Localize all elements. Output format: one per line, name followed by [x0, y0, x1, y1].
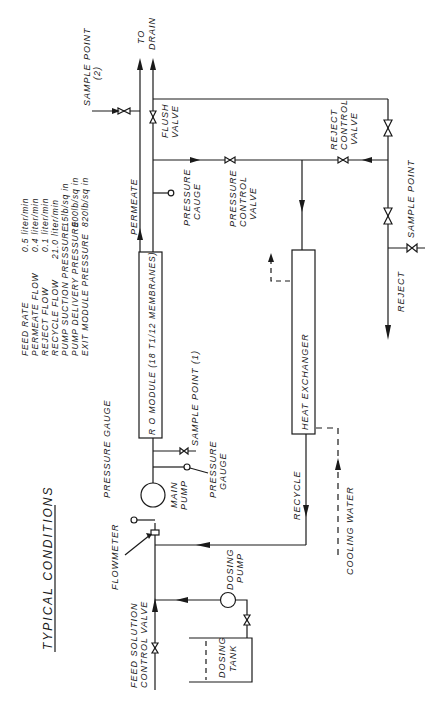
flow-arrow-icon	[268, 253, 274, 262]
flow-arrow-icon	[299, 200, 305, 212]
pressure-control-valve-icon	[225, 157, 235, 163]
flow-arrow-icon	[196, 542, 210, 548]
sample-point-label: SAMPLE POINT	[406, 159, 416, 238]
flow-arrow-icon	[362, 157, 372, 163]
feed-control-valve-label: FEED SOLUTION	[129, 602, 139, 688]
main-pump-label: MAIN	[169, 482, 179, 509]
diagram-title: TYPICAL CONDITIONS	[41, 486, 55, 650]
cooling-water-arrow-icon	[335, 458, 341, 470]
dosing-valve-icon	[244, 615, 250, 625]
reject-control-valve-icon	[338, 157, 348, 163]
labels: TYPICAL CONDITIONS FEED RATE 0.5 liter/m…	[20, 17, 416, 688]
flush-valve-label: FLUSH	[160, 103, 170, 138]
pressure-gauge-label: GAUGE	[218, 452, 228, 490]
sample-point-2-label: SAMPLE POINT	[82, 27, 92, 106]
ro-module-label: R O MODULE (18 T1/12 MEMBRANES)	[147, 251, 157, 435]
sample-point-valve-icon	[407, 244, 417, 252]
reject-control-valve-label: VALVE	[349, 112, 359, 145]
condition-value: 820lb/sq in	[80, 177, 90, 227]
valve-icon	[384, 208, 392, 224]
feed-control-valve-label: CONTROL VALVE	[139, 601, 149, 688]
condition-label: REJECT FLOW	[40, 287, 50, 356]
heat-exchanger-label: HEAT EXCHANGER	[300, 333, 310, 430]
main-pump-icon	[141, 483, 165, 507]
flush-valve-icon	[150, 111, 156, 123]
dosing-pump-label: PUMP	[235, 553, 245, 583]
condition-value: 21.0 liter/min	[50, 199, 60, 260]
reject-label: REJECT	[396, 270, 406, 312]
flowmeter-label: FLOWMETER	[110, 524, 120, 591]
condition-value: 0.4 liter/min	[30, 198, 40, 252]
pressure-gauge-icon	[184, 464, 190, 470]
pressure-gauge-icon	[131, 517, 137, 523]
ro-process-flow-diagram: TYPICAL CONDITIONS FEED RATE 0.5 liter/m…	[0, 0, 439, 713]
dosing-tank-label: DOSING	[217, 636, 227, 678]
pressure-gauge-label: PRESSURE GAUGE	[102, 399, 112, 498]
main-pump-label: PUMP	[179, 480, 189, 510]
reject-control-valve-label: CONTROL	[339, 99, 349, 150]
permeate-label: PERMEATE	[129, 178, 139, 235]
cooling-water-label: COOLING WATER	[345, 486, 355, 575]
reject-control-valve-label: REJECT	[329, 108, 339, 150]
condition-value: 900lb/sq in	[70, 177, 80, 227]
flow-arrow-icon	[190, 157, 200, 163]
condition-label: RECYCLE FLOW	[50, 279, 60, 356]
condition-value: 15lb/sq in	[60, 183, 70, 227]
sample-point-2-num: (2)	[92, 66, 102, 80]
pressure-gauge-label: PRESSURE	[182, 168, 192, 226]
valve-icon	[384, 120, 392, 136]
flush-valve-label: VALVE	[170, 105, 180, 138]
flow-arrow-icon	[176, 597, 188, 603]
to-drain-label: DRAIN	[147, 17, 157, 50]
dosing-pump-label: DOSING	[225, 548, 235, 590]
flowmeter-icon	[151, 530, 159, 535]
pressure-gauge-icon	[168, 190, 174, 196]
recycle-arrow-icon	[303, 505, 309, 517]
pressure-control-valve-label: CONTROL	[238, 176, 248, 227]
reject-arrow-icon	[385, 325, 391, 340]
condition-value: 0.5 liter/min	[20, 198, 30, 252]
conditions-table: FEED RATE 0.5 liter/min PERMEATE FLOW 0.…	[20, 177, 90, 356]
sample-point-1-valve-icon	[180, 448, 188, 454]
condition-label: PUMP SUCTION PRESSURE	[60, 225, 70, 356]
pressure-control-valve-label: PRESSURE	[228, 169, 238, 227]
recycle-label: RECYCLE	[292, 470, 302, 520]
condition-value: 0.1 liter/min	[40, 198, 50, 252]
condition-label: PUMP DELIVERY PRESSURE	[70, 221, 80, 356]
pressure-gauge-label: CAUGE	[192, 183, 202, 220]
dosing-tank-label: TANK	[228, 645, 238, 672]
to-drain-label: TO	[136, 30, 146, 44]
dosing-pump-icon	[221, 593, 236, 608]
condition-label: FEED RATE	[20, 302, 30, 356]
condition-label: EXIT MODULE PRESSURE	[80, 233, 90, 356]
feed-control-valve-icon	[152, 643, 158, 653]
pressure-control-valve-label: VALVE	[248, 187, 258, 220]
pressure-gauge-label: PRESSURE	[208, 440, 218, 498]
drain-arrow-icon	[150, 58, 156, 70]
permeate-out-arrow-icon	[137, 58, 143, 70]
sample-point-1-label: SAMPLE POINT (1)	[190, 350, 200, 446]
condition-label: PERMEATE FLOW	[30, 272, 40, 356]
